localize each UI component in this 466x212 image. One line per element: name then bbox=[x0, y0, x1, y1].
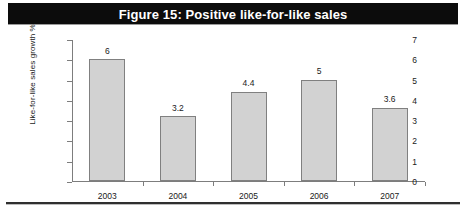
y-axis-tick bbox=[67, 121, 72, 122]
y-axis-tick-label: 7 bbox=[397, 36, 417, 45]
bar-value-label: 3.6 bbox=[384, 95, 396, 104]
figure-container: Figure 15: Positive like-for-like sales … bbox=[0, 0, 466, 212]
bar-value-label: 4.4 bbox=[243, 79, 255, 88]
x-axis-category-label: 2007 bbox=[380, 192, 399, 201]
x-axis-tick bbox=[425, 182, 426, 186]
bar bbox=[160, 116, 196, 181]
y-axis-line bbox=[72, 40, 73, 182]
bar-chart: Like-for-like sales growth % 01234567 63… bbox=[0, 28, 466, 198]
x-axis-tick bbox=[213, 182, 214, 186]
figure-title-bar: Figure 15: Positive like-for-like sales bbox=[8, 3, 458, 24]
bar bbox=[231, 92, 267, 181]
y-axis-tick bbox=[67, 101, 72, 102]
y-axis-tick bbox=[67, 141, 72, 142]
y-axis-tick-label: 4 bbox=[397, 97, 417, 106]
x-axis-category-label: 2006 bbox=[310, 192, 329, 201]
y-axis-tick bbox=[67, 182, 72, 183]
x-axis-category-label: 2003 bbox=[98, 192, 117, 201]
y-axis-tick-label: 5 bbox=[397, 76, 417, 85]
bar bbox=[372, 108, 408, 181]
bottom-divider bbox=[6, 202, 460, 204]
y-axis-tick bbox=[67, 60, 72, 61]
y-axis-tick bbox=[67, 40, 72, 41]
x-axis-category-label: 2005 bbox=[239, 192, 258, 201]
bar-value-label: 6 bbox=[105, 47, 110, 56]
y-axis-tick-label: 6 bbox=[397, 56, 417, 65]
plot-area: 01234567 63.24.453.6 2003200420052006200… bbox=[72, 40, 425, 182]
y-axis-tick bbox=[67, 81, 72, 82]
figure-title: Figure 15: Positive like-for-like sales bbox=[8, 7, 458, 20]
bar bbox=[301, 80, 337, 181]
x-axis-line bbox=[72, 181, 425, 182]
x-axis-tick bbox=[354, 182, 355, 186]
x-axis-category-label: 2004 bbox=[168, 192, 187, 201]
x-axis-tick bbox=[284, 182, 285, 186]
bar-value-label: 3.2 bbox=[172, 104, 184, 113]
y-axis-title: Like-for-like sales growth % bbox=[28, 15, 37, 135]
bar-value-label: 5 bbox=[317, 67, 322, 76]
y-axis-tick bbox=[67, 162, 72, 163]
bar bbox=[89, 59, 125, 181]
x-axis-tick bbox=[143, 182, 144, 186]
